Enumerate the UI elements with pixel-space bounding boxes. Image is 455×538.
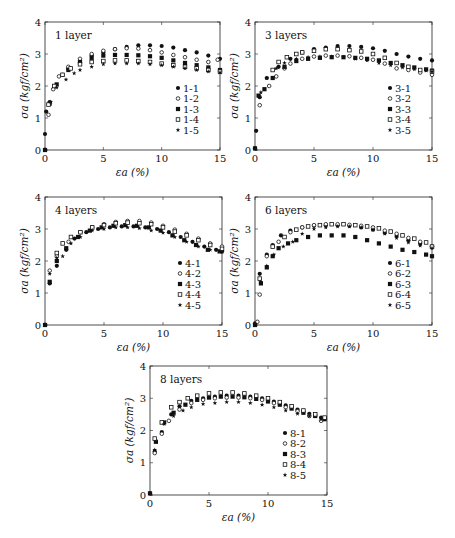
legend-entry: 6-5 bbox=[395, 300, 411, 311]
y-axis-label: σa (kgf/cm²) bbox=[123, 398, 135, 464]
y-tick-label: 1 bbox=[140, 457, 146, 468]
x-tick-label: 10 bbox=[155, 153, 168, 164]
y-axis-label: σa (kgf/cm²) bbox=[18, 228, 30, 294]
x-axis-label: εa (%) bbox=[222, 511, 255, 523]
legend-entry: 8-3 bbox=[290, 449, 306, 460]
x-axis-label: εa (%) bbox=[116, 166, 149, 178]
y-axis-label: σa (kgf/cm²) bbox=[228, 228, 240, 294]
legend-entry: 8-4 bbox=[290, 459, 306, 470]
panel-title: 4 layers bbox=[55, 204, 97, 216]
x-tick-label: 15 bbox=[321, 498, 334, 509]
y-tick-label: 2 bbox=[245, 256, 251, 267]
legend-entry: 3-4 bbox=[395, 114, 411, 125]
legend-entry: 1-1 bbox=[183, 83, 199, 94]
panel-title: 1 layer bbox=[55, 29, 93, 41]
y-tick-label: 2 bbox=[35, 256, 41, 267]
chart-panel-8-layers: 05101501234εa (%)σa (kgf/cm²)8 layers8-1… bbox=[123, 361, 333, 524]
x-tick-label: 15 bbox=[214, 153, 227, 164]
legend-entry: 6-3 bbox=[395, 279, 411, 290]
y-tick-label: 1 bbox=[245, 288, 251, 299]
legend-entry: 1-4 bbox=[183, 114, 199, 125]
legend-entry: 4-1 bbox=[185, 258, 201, 269]
x-tick-label: 10 bbox=[367, 328, 380, 339]
legend: 3-13-23-33-43-5 bbox=[388, 83, 411, 136]
legend-entry: 3-2 bbox=[395, 93, 411, 104]
y-axis-label: σa (kgf/cm²) bbox=[228, 53, 240, 119]
chart-panel-3-layers: 05101501234εa (%)σa (kgf/cm²)3 layers3-1… bbox=[228, 17, 438, 179]
legend-entry: 3-5 bbox=[395, 125, 411, 136]
legend-entry: 1-5 bbox=[183, 125, 199, 136]
legend-entry: 6-1 bbox=[395, 258, 411, 269]
legend-entry: 3-3 bbox=[395, 104, 411, 115]
y-tick-label: 4 bbox=[245, 17, 251, 28]
legend-entry: 8-5 bbox=[290, 470, 306, 481]
y-tick-label: 0 bbox=[35, 145, 41, 156]
x-tick-label: 0 bbox=[42, 328, 48, 339]
legend-entry: 4-4 bbox=[185, 289, 201, 300]
legend-entry: 6-2 bbox=[395, 268, 411, 279]
figure-caption bbox=[0, 526, 455, 538]
x-tick-label: 10 bbox=[367, 153, 380, 164]
x-tick-label: 0 bbox=[147, 498, 153, 509]
y-tick-label: 3 bbox=[245, 224, 251, 235]
legend: 4-14-24-34-44-5 bbox=[178, 258, 201, 311]
x-tick-label: 5 bbox=[100, 153, 106, 164]
legend-entry: 6-4 bbox=[395, 289, 411, 300]
legend: 1-11-21-31-41-5 bbox=[176, 83, 199, 136]
x-tick-label: 5 bbox=[311, 153, 317, 164]
y-tick-label: 2 bbox=[245, 81, 251, 92]
x-tick-label: 15 bbox=[426, 328, 439, 339]
legend: 6-16-26-36-46-5 bbox=[388, 258, 411, 311]
legend-entry: 4-3 bbox=[185, 279, 201, 290]
panel-title: 8 layers bbox=[160, 373, 202, 385]
y-tick-label: 1 bbox=[245, 113, 251, 124]
legend-entry: 8-1 bbox=[290, 428, 306, 439]
x-axis-label: εa (%) bbox=[327, 166, 360, 178]
x-axis-label: εa (%) bbox=[327, 341, 360, 353]
chart-panel-6-layers: 05101501234εa (%)σa (kgf/cm²)6 layers6-1… bbox=[228, 192, 438, 354]
y-axis-label: σa (kgf/cm²) bbox=[18, 53, 30, 119]
panel-title: 6 layers bbox=[265, 204, 307, 216]
legend-entry: 4-2 bbox=[185, 268, 201, 279]
chart-panel-4-layers: 05101501234εa (%)σa (kgf/cm²)4 layers4-1… bbox=[18, 192, 228, 354]
y-tick-label: 1 bbox=[35, 288, 41, 299]
legend: 8-18-28-38-48-5 bbox=[283, 428, 306, 481]
x-tick-label: 15 bbox=[216, 328, 229, 339]
x-tick-label: 10 bbox=[157, 328, 170, 339]
y-tick-label: 4 bbox=[35, 192, 41, 203]
legend-entry: 3-1 bbox=[395, 83, 411, 94]
x-tick-label: 5 bbox=[206, 498, 212, 509]
y-tick-label: 0 bbox=[245, 320, 251, 331]
y-tick-label: 4 bbox=[245, 192, 251, 203]
y-tick-label: 2 bbox=[140, 425, 146, 436]
legend-entry: 8-2 bbox=[290, 438, 306, 449]
x-tick-label: 10 bbox=[262, 498, 275, 509]
x-tick-label: 5 bbox=[311, 328, 317, 339]
y-tick-label: 3 bbox=[35, 49, 41, 60]
y-tick-label: 3 bbox=[140, 393, 146, 404]
y-tick-label: 3 bbox=[245, 49, 251, 60]
legend-entry: 4-5 bbox=[185, 300, 201, 311]
panel-title: 3 layers bbox=[265, 29, 307, 41]
legend-entry: 1-2 bbox=[183, 93, 199, 104]
x-tick-label: 15 bbox=[426, 153, 439, 164]
chart-panel-1-layer: 05101501234εa (%)σa (kgf/cm²)1 layer1-11… bbox=[18, 17, 226, 179]
y-tick-label: 0 bbox=[140, 490, 146, 501]
y-tick-label: 3 bbox=[35, 224, 41, 235]
y-tick-label: 4 bbox=[35, 17, 41, 28]
legend-entry: 1-3 bbox=[183, 104, 199, 115]
y-tick-label: 0 bbox=[35, 320, 41, 331]
y-tick-label: 1 bbox=[35, 113, 41, 124]
x-tick-label: 0 bbox=[252, 328, 258, 339]
x-tick-label: 5 bbox=[101, 328, 107, 339]
y-tick-label: 2 bbox=[35, 81, 41, 92]
x-tick-label: 0 bbox=[42, 153, 48, 164]
y-tick-label: 0 bbox=[245, 145, 251, 156]
x-tick-label: 0 bbox=[252, 153, 258, 164]
x-axis-label: εa (%) bbox=[117, 341, 150, 353]
y-tick-label: 4 bbox=[140, 361, 146, 372]
